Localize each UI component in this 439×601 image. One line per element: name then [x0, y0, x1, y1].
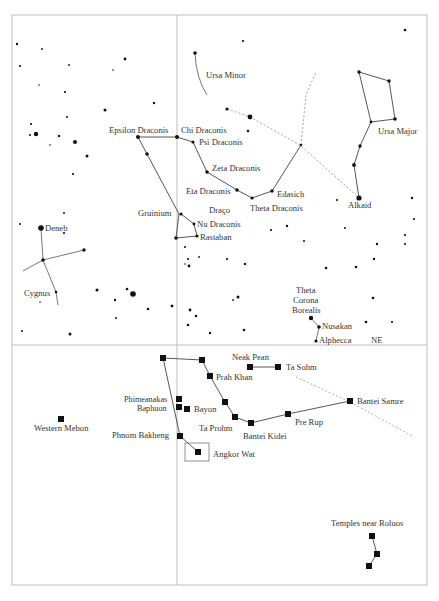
- label-alphecca: Alphecca: [319, 335, 352, 345]
- temple-marker: [199, 357, 205, 363]
- temple-marker-prah-khan: [207, 373, 213, 379]
- label-ta-prohm: Ta Prohm: [199, 423, 233, 433]
- label-bantei-samre: Bantei Samre: [357, 396, 404, 406]
- label-nusakan: Nusakan: [322, 321, 353, 331]
- constellation-cygnus: Deneb Cygnus: [23, 223, 136, 305]
- label-deneb: Deneb: [45, 223, 67, 233]
- label-rastaban: Rastaban: [200, 232, 232, 242]
- temple-marker-roluos: [366, 563, 372, 569]
- label-angkor-wat: Angkor Wat: [213, 449, 255, 459]
- temple-marker-ta-sohm: [275, 364, 281, 370]
- label-theta-draconis: Theta Draconis: [250, 203, 303, 213]
- label-ta-sohm: Ta Sohm: [286, 362, 317, 372]
- label-theta: Theta: [296, 285, 316, 295]
- temple-marker: [222, 399, 228, 405]
- temple-marker-phimeanakas: [176, 396, 182, 402]
- label-baphuon: Baphuon: [137, 404, 167, 413]
- label-ursa-major: Ursa Major: [378, 126, 418, 136]
- temple-marker-bayon: [184, 406, 190, 412]
- star: [248, 115, 253, 120]
- temple-marker-ta-prohm: [232, 414, 238, 420]
- label-edasich: Edasich: [277, 189, 305, 199]
- label-bantei-kidei: Bantei Kidei: [243, 431, 287, 441]
- temple-marker-angkor-wat: [195, 449, 201, 455]
- label-pre-rup: Pre Rup: [295, 417, 323, 427]
- label-neak-pean: Neak Pean: [232, 352, 270, 362]
- label-alkaid: Alkaid: [348, 200, 372, 210]
- label-eta-draconis: Eta Draconis: [186, 186, 231, 196]
- temple-marker: [160, 355, 166, 361]
- label-ursa-minor: Ursa Minor: [206, 70, 246, 80]
- label-prah-khan: Prah Khan: [216, 372, 253, 382]
- label-cygnus: Cygnus: [24, 288, 51, 298]
- label-corona: Corona: [293, 295, 318, 305]
- temple-marker-neak-pean: [247, 364, 253, 370]
- label-gruinium: Gruinium: [138, 208, 172, 218]
- label-chi-draconis: Chi Draconis: [181, 125, 227, 135]
- label-nu-draconis: Nu Draconis: [197, 219, 241, 229]
- temple-marker-roluos: [369, 533, 375, 539]
- constellation-ursa-minor: Ursa Minor: [193, 51, 246, 95]
- label-draco: Draço: [209, 205, 230, 215]
- temple-layout: Neak Pean Ta Sohm Prah Khan Phimeanakas …: [34, 352, 414, 569]
- label-bayon: Bayon: [194, 404, 217, 414]
- temple-marker-bantei-kidei: [248, 420, 254, 426]
- label-direction-ne: NE: [371, 335, 382, 345]
- label-psi-draconis: Psi Draconis: [199, 137, 243, 147]
- bright-star: [130, 291, 136, 297]
- label-phnom-bakheng: Phnom Bakheng: [112, 430, 170, 440]
- constellation-ursa-major: Ursa Major Alkaid: [348, 70, 418, 210]
- label-western-mebon: Western Mebon: [34, 423, 89, 433]
- label-temples-near-roluos: Temples near Roluos: [331, 518, 404, 528]
- constellation-corona-borealis: Theta Corona Borealis Nusakan Alphecca N…: [292, 285, 382, 345]
- star: [225, 107, 228, 110]
- temple-marker-pre-rup: [285, 411, 291, 417]
- temple-marker-phnom-bakheng: [177, 433, 183, 439]
- constellation-draco: Epsilon Draconis Chi Draconis Psi Dracon…: [109, 125, 305, 242]
- star-deneb: [38, 225, 44, 231]
- temple-marker-bantei-samre: [347, 398, 353, 404]
- temple-marker-roluos: [374, 551, 380, 557]
- label-zeta-draconis: Zeta Draconis: [212, 163, 261, 173]
- map-frame: [12, 15, 427, 585]
- label-phimeanakas: Phimeanakas: [124, 395, 167, 404]
- dashed-guide-lines: [227, 72, 359, 198]
- temple-marker-baphuon: [176, 404, 182, 410]
- label-epsilon-draconis: Epsilon Draconis: [109, 125, 169, 135]
- temple-marker-western-mebon: [58, 416, 64, 422]
- label-borealis: Borealis: [292, 305, 321, 315]
- star-temple-correlation-map: Ursa Minor Ursa Major Alkaid Ep: [0, 0, 439, 601]
